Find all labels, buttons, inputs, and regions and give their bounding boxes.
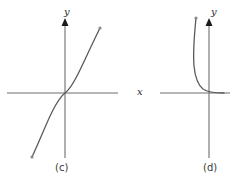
panel-d-curve-endpoint-upper <box>194 16 197 19</box>
panel-c-plot <box>0 0 118 187</box>
panel-c: y x (c) <box>0 0 118 187</box>
figure-root: y x (c) y (d) <box>0 0 237 187</box>
panel-d-y-axis-arrow-icon <box>206 18 213 26</box>
panel-d-caption: (d) <box>203 163 217 173</box>
panel-d-plot <box>118 0 236 187</box>
panel-d-y-axis-label: y <box>211 7 217 17</box>
panel-d: y (d) <box>118 0 236 187</box>
panel-c-y-axis-arrow-icon <box>62 18 69 26</box>
panel-c-y-axis-label: y <box>64 7 70 17</box>
panel-c-curve-endpoint-upper <box>98 26 101 29</box>
panel-c-caption: (c) <box>55 163 68 173</box>
panel-c-curve-endpoint-lower <box>30 155 33 158</box>
